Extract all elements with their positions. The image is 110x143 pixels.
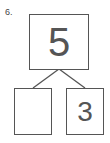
part-right-box: 3 [66, 88, 104, 135]
connector-left [33, 69, 59, 88]
part-left-box[interactable] [14, 88, 52, 135]
whole-box: 5 [29, 14, 89, 70]
connector-right [59, 69, 85, 88]
part-right-value: 3 [77, 96, 93, 128]
whole-value: 5 [48, 20, 70, 65]
